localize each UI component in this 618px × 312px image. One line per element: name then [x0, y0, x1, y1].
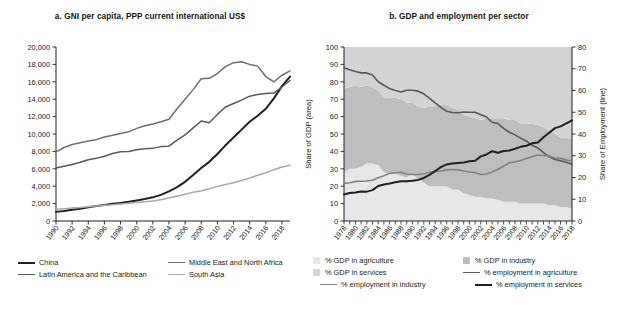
- legend-label: % GDP in industry: [475, 256, 535, 265]
- svg-text:40: 40: [330, 147, 338, 156]
- svg-text:1992: 1992: [60, 224, 77, 242]
- panel-b-gdp-employment: b. GDP and employment per sector 0102030…: [300, 0, 618, 312]
- svg-text:0: 0: [578, 217, 582, 226]
- svg-text:20: 20: [330, 182, 338, 191]
- svg-text:1994: 1994: [76, 224, 93, 242]
- svg-text:70: 70: [578, 64, 586, 73]
- area-swatch-icon: [313, 269, 320, 276]
- legend-label: Middle East and North Africa: [189, 258, 283, 267]
- svg-text:1998: 1998: [108, 224, 125, 242]
- legend-row: % GDP in agriculture % GDP in industry: [308, 256, 616, 265]
- svg-text:1990: 1990: [44, 224, 61, 242]
- legend-label: % employment in industry: [341, 280, 426, 289]
- svg-text:2014: 2014: [237, 224, 254, 242]
- svg-text:2010: 2010: [205, 224, 222, 242]
- legend-label: Latin America and the Caribbean: [39, 270, 147, 279]
- legend-row: % GDP in services % employment in agricu…: [308, 268, 616, 277]
- line-swatch-icon: [18, 274, 35, 275]
- svg-text:2002: 2002: [140, 224, 157, 242]
- legend-label: China: [39, 258, 58, 267]
- svg-text:10: 10: [330, 199, 338, 208]
- svg-text:30: 30: [330, 165, 338, 174]
- line-swatch-icon: [320, 284, 337, 285]
- line-swatch-icon: [463, 272, 480, 273]
- figure-container: a. GNI per capita, PPP current internati…: [0, 0, 618, 312]
- line-swatch-icon: [168, 274, 185, 275]
- svg-text:2008: 2008: [189, 224, 206, 242]
- legend-label: % employment in agriculture: [484, 268, 577, 277]
- svg-text:Share of Employment (line): Share of Employment (line): [598, 88, 607, 180]
- svg-text:8,000: 8,000: [32, 147, 51, 156]
- legend-label: % GDP in agriculture: [325, 256, 394, 265]
- svg-text:2004: 2004: [157, 224, 174, 242]
- legend-row: Latin America and the Caribbean South As…: [18, 270, 300, 279]
- svg-text:30: 30: [578, 151, 586, 160]
- legend-label: % employment in services: [496, 280, 582, 289]
- panel-a-legend: China Middle East and North Africa Latin…: [18, 258, 300, 282]
- svg-text:50: 50: [578, 108, 586, 117]
- legend-item-gdp-services[interactable]: % GDP in services: [308, 268, 458, 277]
- svg-text:2000: 2000: [124, 224, 141, 242]
- line-swatch-icon: [475, 284, 492, 286]
- svg-text:4,000: 4,000: [32, 182, 51, 191]
- legend-item-south-asia[interactable]: South Asia: [168, 270, 224, 279]
- svg-text:100: 100: [326, 43, 338, 52]
- svg-text:2018: 2018: [270, 224, 287, 242]
- svg-text:60: 60: [330, 112, 338, 121]
- legend-item-latin-america-caribbean[interactable]: Latin America and the Caribbean: [18, 270, 168, 279]
- svg-text:20: 20: [578, 173, 586, 182]
- svg-text:16,000: 16,000: [27, 78, 50, 87]
- legend-row: % employment in industry % employment in…: [308, 280, 616, 289]
- svg-text:2012: 2012: [221, 224, 238, 242]
- svg-text:10: 10: [578, 195, 586, 204]
- svg-text:2,000: 2,000: [32, 199, 51, 208]
- svg-text:10,000: 10,000: [27, 130, 50, 139]
- svg-text:90: 90: [330, 60, 338, 69]
- svg-text:70: 70: [330, 95, 338, 104]
- panel-a-plot: 02,0004,0006,0008,00010,00012,00014,0001…: [0, 0, 300, 258]
- area-swatch-icon: [463, 257, 470, 264]
- svg-text:18,000: 18,000: [27, 60, 50, 69]
- svg-text:80: 80: [330, 78, 338, 87]
- svg-text:20,000: 20,000: [27, 43, 50, 52]
- line-swatch-icon: [168, 262, 185, 263]
- panel-a-gni-per-capita: a. GNI per capita, PPP current internati…: [0, 0, 300, 312]
- svg-text:Share of GDP (area): Share of GDP (area): [304, 99, 313, 169]
- legend-item-china[interactable]: China: [18, 258, 168, 267]
- legend-row: China Middle East and North Africa: [18, 258, 300, 267]
- legend-item-employment-services[interactable]: % employment in services: [470, 280, 582, 289]
- legend-item-gdp-agriculture[interactable]: % GDP in agriculture: [308, 256, 458, 265]
- legend-item-gdp-industry[interactable]: % GDP in industry: [458, 256, 535, 265]
- legend-item-employment-agriculture[interactable]: % employment in agriculture: [458, 268, 577, 277]
- svg-text:2006: 2006: [173, 224, 190, 242]
- panel-b-plot: 0102030405060708090100010203040506070801…: [300, 0, 618, 258]
- svg-text:1996: 1996: [92, 224, 109, 242]
- area-swatch-icon: [313, 257, 320, 264]
- legend-label: South Asia: [189, 270, 224, 279]
- line-swatch-icon: [18, 262, 35, 264]
- svg-text:2016: 2016: [253, 224, 270, 242]
- svg-text:50: 50: [330, 130, 338, 139]
- svg-text:12,000: 12,000: [27, 112, 50, 121]
- svg-text:6,000: 6,000: [32, 165, 51, 174]
- panel-b-legend: % GDP in agriculture % GDP in industry %…: [308, 256, 616, 292]
- legend-item-employment-industry[interactable]: % employment in industry: [308, 280, 470, 289]
- legend-item-middle-east-north-africa[interactable]: Middle East and North Africa: [168, 258, 283, 267]
- svg-text:80: 80: [578, 43, 586, 52]
- svg-text:0: 0: [46, 217, 50, 226]
- svg-text:0: 0: [334, 217, 338, 226]
- svg-text:2018: 2018: [560, 224, 577, 242]
- svg-text:40: 40: [578, 130, 586, 139]
- legend-label: % GDP in services: [325, 268, 386, 277]
- svg-text:60: 60: [578, 86, 586, 95]
- svg-text:14,000: 14,000: [27, 95, 50, 104]
